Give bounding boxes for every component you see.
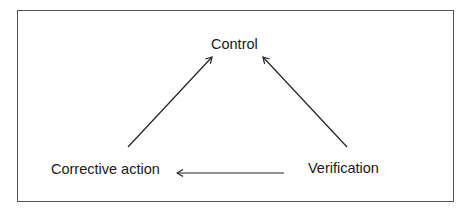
arrows-layer bbox=[0, 0, 470, 215]
arrow-verification-to-control bbox=[263, 57, 347, 147]
arrow-corrective-to-control bbox=[128, 57, 212, 147]
